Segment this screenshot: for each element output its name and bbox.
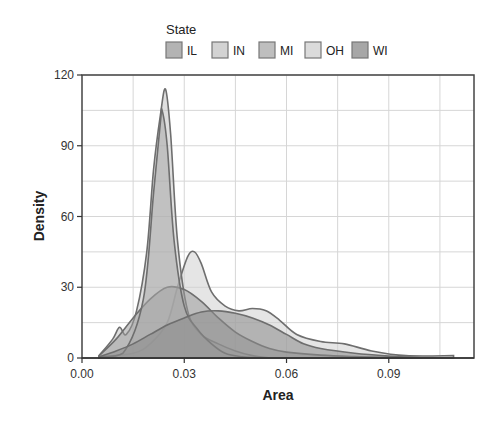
x-tick-label: 0.00	[70, 367, 94, 381]
legend-swatch	[352, 42, 368, 58]
legend-swatch	[305, 42, 321, 58]
density-chart: State ILINMIOHWI 03060901200.000.030.060…	[0, 0, 499, 421]
legend-label: OH	[326, 44, 344, 58]
y-tick-label: 90	[61, 139, 75, 153]
legend-label: IL	[187, 44, 197, 58]
x-tick-label: 0.09	[377, 367, 401, 381]
legend-title: State	[166, 22, 196, 37]
y-axis-title: Density	[31, 191, 47, 242]
y-tick-label: 30	[61, 280, 75, 294]
y-tick-label: 0	[67, 351, 74, 365]
legend-item-oh[interactable]: OH	[305, 42, 344, 58]
legend-swatch	[212, 42, 228, 58]
legend-label: MI	[280, 44, 293, 58]
legend-label: IN	[233, 44, 245, 58]
x-tick-label: 0.03	[173, 367, 197, 381]
legend-item-in[interactable]: IN	[212, 42, 245, 58]
legend-item-wi[interactable]: WI	[352, 42, 388, 58]
density-areas	[99, 89, 454, 358]
y-tick-label: 120	[54, 68, 74, 82]
legend-label: WI	[373, 44, 388, 58]
legend-swatch	[259, 42, 275, 58]
x-tick-label: 0.06	[275, 367, 299, 381]
legend: State ILINMIOHWI	[166, 22, 388, 58]
legend-swatch	[166, 42, 182, 58]
x-axis-title: Area	[262, 387, 293, 403]
legend-item-il[interactable]: IL	[166, 42, 197, 58]
y-tick-label: 60	[61, 210, 75, 224]
legend-item-mi[interactable]: MI	[259, 42, 293, 58]
